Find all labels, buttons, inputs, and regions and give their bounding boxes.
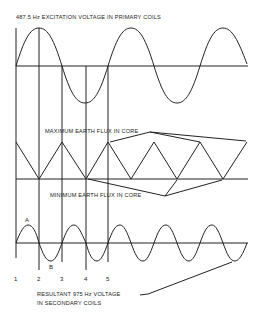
marker-label-5: 5	[106, 276, 109, 282]
diagram-title: 487.5 Hz EXCITATION VOLTAGE IN PRIMARY C…	[16, 14, 161, 20]
resultant-label-line1: RESULTANT 975 Hz VOLTAGE	[37, 291, 121, 297]
flux-triangle-wave	[16, 142, 247, 179]
resultant-label-line2: IN SECONDARY COILS	[37, 300, 101, 306]
marker-label-4: 4	[84, 276, 87, 282]
diagram-canvas	[0, 0, 258, 317]
min-flux-label: MINIMUM EARTH FLUX IN CORE	[50, 192, 142, 198]
max-flux-label: MAXIMUM EARTH FLUX IN CORE	[45, 128, 138, 134]
marker-label-1: 1	[14, 276, 17, 282]
point-a-label: A	[25, 217, 29, 223]
resultant-leader	[140, 262, 232, 295]
marker-label-2: 2	[37, 276, 40, 282]
marker-label-3: 3	[60, 276, 63, 282]
point-b-label: B	[49, 264, 53, 270]
